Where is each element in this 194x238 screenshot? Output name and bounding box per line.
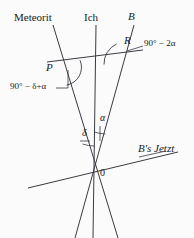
label-b-jetzt: B's Jetzt [138, 143, 174, 154]
label-angle-delta: δ [82, 128, 87, 138]
diagram-canvas [0, 0, 194, 238]
label-angle-p: 90° − δ+α [10, 82, 46, 91]
label-point-r: R [124, 35, 131, 46]
label-point-p: P [46, 62, 53, 73]
label-origin: 0 [100, 168, 105, 178]
spacetime-diagram: Meteorit Ich B P R 90° − 2α 90° − δ+α δ … [0, 0, 194, 238]
worldline-ich [93, 25, 96, 238]
angle-arc-delta [83, 144, 95, 146]
label-angle-alpha: α [100, 113, 105, 123]
label-ich: Ich [84, 12, 98, 23]
label-meteorit: Meteorit [14, 12, 52, 23]
label-angle-r: 90° − 2α [144, 39, 175, 48]
label-b-worldline: B [128, 11, 135, 22]
angle-arc-p [67, 60, 82, 85]
